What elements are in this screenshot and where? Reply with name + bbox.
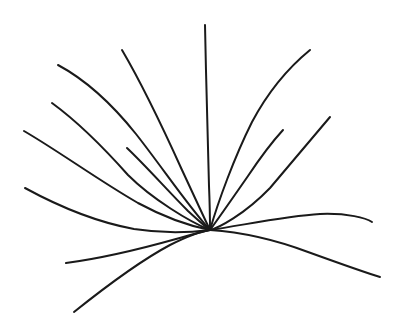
drawing-canvas	[0, 0, 404, 335]
canvas-background	[0, 0, 404, 335]
line-drawing-svg	[0, 0, 404, 335]
